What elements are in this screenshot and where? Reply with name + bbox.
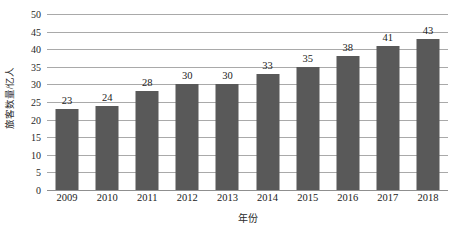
y-axis-tick-label: 50 xyxy=(31,9,41,20)
bar xyxy=(176,84,199,190)
bar-value-label: 43 xyxy=(423,25,434,36)
bar-group: 24 xyxy=(87,14,127,190)
bar-group: 28 xyxy=(127,14,167,190)
bar-value-label: 38 xyxy=(342,42,353,53)
x-axis-tick-label: 2012 xyxy=(177,192,198,203)
x-axis-tick-label: 2013 xyxy=(217,192,238,203)
bar-group: 35 xyxy=(288,14,328,190)
bar xyxy=(136,91,159,190)
x-axis-tick-label: 2011 xyxy=(137,192,158,203)
bars: 23242830303335384143 xyxy=(47,14,448,190)
bar-value-label: 28 xyxy=(142,77,153,88)
y-axis-tick-label: 10 xyxy=(31,149,41,160)
x-axis-tick-label: 2015 xyxy=(297,192,318,203)
bar-value-label: 24 xyxy=(102,92,113,103)
y-axis-tick-labels: 05101520253035404550 xyxy=(18,0,44,195)
bar-group: 41 xyxy=(368,14,408,190)
bar xyxy=(296,67,319,190)
y-axis-tick-label: 20 xyxy=(31,114,41,125)
y-axis-tick-label: 35 xyxy=(31,61,41,72)
x-axis-tick-label: 2009 xyxy=(57,192,78,203)
x-axis-tick-label: 2016 xyxy=(337,192,358,203)
bar-group: 43 xyxy=(408,14,448,190)
y-axis-title: 旅客数量/亿人 xyxy=(0,0,18,195)
x-axis-tick-label: 2010 xyxy=(97,192,118,203)
bar-value-label: 23 xyxy=(62,95,73,106)
bar xyxy=(56,109,79,190)
y-axis-tick-label: 5 xyxy=(36,167,41,178)
y-axis-tick-label: 25 xyxy=(31,97,41,108)
x-axis-title: 年份 xyxy=(47,210,448,225)
bar-group: 30 xyxy=(167,14,207,190)
bar xyxy=(416,39,439,190)
bar-group: 33 xyxy=(248,14,288,190)
x-axis-tick-labels: 2009201020112012201320142015201620172018 xyxy=(47,192,448,210)
y-axis-tick-label: 0 xyxy=(36,185,41,196)
y-axis-tick-label: 30 xyxy=(31,79,41,90)
bar-group: 30 xyxy=(207,14,247,190)
plot-area: 23242830303335384143 xyxy=(47,14,448,190)
x-axis-tick-label: 2018 xyxy=(417,192,438,203)
bar xyxy=(216,84,239,190)
bar-value-label: 30 xyxy=(222,70,233,81)
x-axis-tick-label: 2014 xyxy=(257,192,278,203)
x-axis-tick-label: 2017 xyxy=(377,192,398,203)
x-axis-line xyxy=(47,190,448,191)
bar-group: 38 xyxy=(328,14,368,190)
bar xyxy=(336,56,359,190)
bar xyxy=(376,46,399,190)
y-axis-tick-label: 40 xyxy=(31,44,41,55)
bar-value-label: 41 xyxy=(383,32,394,43)
y-axis-tick-label: 45 xyxy=(31,26,41,37)
bar xyxy=(96,106,119,190)
bar-value-label: 30 xyxy=(182,70,193,81)
bar xyxy=(256,74,279,190)
y-axis-title-text: 旅客数量/亿人 xyxy=(2,66,16,129)
bar-group: 23 xyxy=(47,14,87,190)
bar-value-label: 33 xyxy=(262,60,273,71)
y-axis-tick-label: 15 xyxy=(31,132,41,143)
bar-value-label: 35 xyxy=(302,53,313,64)
bar-chart: 旅客数量/亿人 05101520253035404550 23242830303… xyxy=(0,0,453,235)
